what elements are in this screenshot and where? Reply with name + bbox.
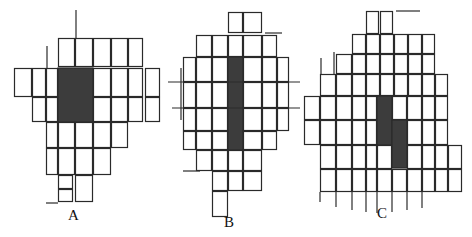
grid-cell bbox=[305, 97, 320, 120]
grid-cell bbox=[353, 121, 366, 145]
grid-cell bbox=[197, 109, 212, 131]
grid-cell bbox=[408, 170, 422, 192]
grid-cell bbox=[449, 170, 462, 192]
shaded-region bbox=[228, 57, 243, 150]
grid-cell bbox=[305, 121, 320, 145]
grid-cell bbox=[321, 170, 336, 192]
grid-cell bbox=[423, 97, 435, 120]
grid-cell bbox=[381, 35, 394, 54]
grid-cell bbox=[263, 36, 277, 57]
grid-cell bbox=[353, 146, 366, 169]
grid-cell bbox=[353, 97, 366, 120]
grid-cell bbox=[321, 75, 336, 96]
grid-cell bbox=[59, 176, 73, 189]
grid-cell bbox=[409, 55, 422, 74]
grid-cell bbox=[244, 36, 262, 57]
grid-panel-a bbox=[15, 10, 160, 203]
grid-cell bbox=[94, 123, 111, 148]
grid-cell bbox=[184, 132, 196, 150]
panel-label-b: B bbox=[224, 214, 234, 231]
grid-cell bbox=[244, 151, 262, 171]
grid-cell bbox=[213, 83, 228, 108]
grid-cell bbox=[449, 146, 462, 169]
grid-cell bbox=[197, 83, 212, 108]
grid-cell bbox=[378, 170, 392, 192]
grid-cell bbox=[367, 75, 380, 96]
grid-cell bbox=[393, 97, 407, 120]
grid-cell bbox=[423, 170, 435, 192]
grid-cell bbox=[112, 123, 128, 148]
grid-cell bbox=[381, 55, 394, 74]
grid-cell bbox=[408, 146, 422, 169]
grid-cell bbox=[367, 121, 377, 145]
grid-cell bbox=[367, 146, 377, 169]
grid-cell bbox=[129, 39, 143, 67]
grid-cell bbox=[129, 98, 143, 122]
grid-cell bbox=[47, 69, 58, 97]
grid-cell bbox=[213, 109, 228, 131]
grid-cell bbox=[184, 109, 196, 131]
grid-cell bbox=[337, 146, 352, 169]
grid-cell bbox=[129, 69, 143, 97]
grid-cell bbox=[33, 69, 46, 97]
grid-cell bbox=[393, 170, 407, 192]
grid-cell bbox=[244, 109, 262, 131]
grid-cell bbox=[337, 121, 352, 145]
grid-cell bbox=[213, 132, 228, 150]
grid-cell bbox=[213, 192, 228, 217]
grid-cell bbox=[423, 35, 435, 54]
grid-cell bbox=[367, 55, 380, 74]
grid-cell bbox=[197, 58, 212, 82]
grid-cell bbox=[59, 123, 75, 148]
grid-cell bbox=[33, 98, 46, 122]
grid-cell bbox=[321, 97, 336, 120]
grid-cell bbox=[337, 97, 352, 120]
grid-cell bbox=[112, 98, 128, 122]
grid-cell bbox=[47, 123, 58, 148]
grid-cell bbox=[59, 149, 75, 175]
grid-cell bbox=[112, 39, 128, 67]
grid-cell bbox=[94, 149, 111, 175]
grid-panel-b bbox=[168, 13, 300, 217]
grid-cell bbox=[321, 146, 336, 169]
grid-cell bbox=[278, 109, 289, 131]
grid-cell bbox=[15, 69, 32, 97]
grid-cell bbox=[263, 109, 277, 131]
grid-cell bbox=[213, 172, 228, 191]
grid-cell bbox=[337, 170, 352, 192]
grid-cell bbox=[94, 69, 111, 97]
grid-cell bbox=[229, 36, 243, 57]
grid-cell bbox=[229, 172, 243, 191]
panel-label-c: C bbox=[377, 205, 387, 222]
grid-cell bbox=[59, 190, 73, 202]
grid-cell bbox=[76, 176, 93, 202]
grid-cell bbox=[436, 121, 448, 145]
grid-cell bbox=[263, 132, 277, 150]
grid-cell bbox=[408, 121, 422, 145]
grid-cell bbox=[353, 75, 366, 96]
grid-cell bbox=[337, 75, 352, 96]
grid-cell bbox=[146, 69, 160, 97]
grid-panel-c bbox=[305, 11, 462, 213]
grid-cell bbox=[353, 35, 366, 54]
grid-cell bbox=[47, 149, 58, 175]
grid-cell bbox=[76, 123, 93, 148]
grid-cell bbox=[367, 12, 379, 34]
shaded-region bbox=[377, 96, 392, 145]
panel-label-a: A bbox=[68, 207, 79, 224]
grid-cell bbox=[436, 146, 448, 169]
grid-cell bbox=[213, 151, 228, 171]
grid-cell bbox=[59, 39, 75, 67]
shaded-region bbox=[392, 120, 407, 168]
grid-cell bbox=[146, 98, 160, 122]
grid-cell bbox=[395, 75, 408, 96]
grid-cell bbox=[423, 146, 435, 169]
grid-cell bbox=[367, 35, 380, 54]
grid-cell bbox=[244, 132, 262, 150]
grid-cell bbox=[197, 132, 212, 150]
grid-cell bbox=[263, 83, 277, 108]
grid-cell bbox=[395, 55, 408, 74]
shaded-region bbox=[58, 68, 93, 122]
grid-cell bbox=[423, 121, 435, 145]
grid-cell bbox=[381, 75, 394, 96]
